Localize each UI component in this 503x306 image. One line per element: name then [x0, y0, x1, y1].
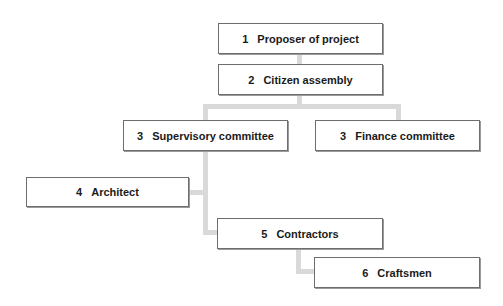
node-label: Supervisory committee	[152, 130, 274, 142]
node-number: 4	[76, 186, 82, 198]
connector-to-craftsmen	[296, 269, 315, 274]
node-proposer-of-project: 1 Proposer of project	[218, 23, 383, 54]
node-label: Contractors	[276, 228, 338, 240]
node-label: Citizen assembly	[263, 74, 352, 86]
node-label: Proposer of project	[257, 33, 358, 45]
node-citizen-assembly: 2 Citizen assembly	[218, 64, 383, 95]
node-number: 2	[248, 74, 254, 86]
node-supervisory-committee: 3 Supervisory committee	[123, 120, 288, 151]
connector-to-contractors	[203, 230, 218, 235]
node-number: 3	[340, 130, 346, 142]
node-number: 6	[362, 267, 368, 279]
node-craftsmen: 6 Craftsmen	[314, 257, 480, 288]
connector-committees-horizontal	[203, 104, 401, 109]
node-number: 3	[137, 130, 143, 142]
node-finance-committee: 3 Finance committee	[315, 120, 480, 151]
node-label: Finance committee	[355, 130, 455, 142]
node-architect: 4 Architect	[26, 177, 189, 207]
node-label: Craftsmen	[377, 267, 431, 279]
connector-to-finance	[396, 104, 401, 121]
node-number: 1	[242, 33, 248, 45]
node-label: Architect	[91, 186, 139, 198]
connector-to-supervisory	[203, 104, 208, 121]
node-contractors: 5 Contractors	[217, 218, 383, 249]
connector-to-architect	[188, 190, 205, 195]
node-number: 5	[261, 228, 267, 240]
